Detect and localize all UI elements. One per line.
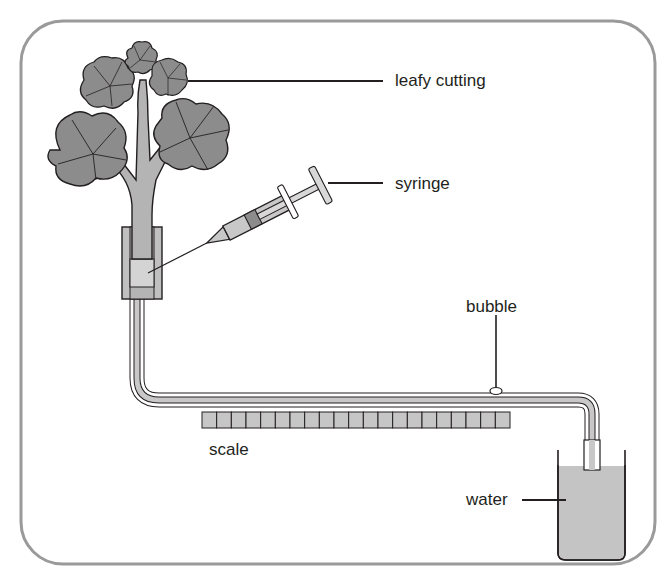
scale-cell: [275, 412, 290, 428]
air-bubble: [490, 388, 502, 395]
scale-cell: [393, 412, 408, 428]
scale-cell: [466, 412, 481, 428]
water-beaker: [558, 440, 625, 560]
scale-cell: [217, 412, 232, 428]
scale-cell: [422, 412, 437, 428]
scale-cell: [202, 412, 217, 428]
scale-cell: [378, 412, 393, 428]
scale-cell: [495, 412, 510, 428]
scale-cell: [363, 412, 378, 428]
scale-cell: [305, 412, 320, 428]
scale-cell: [334, 412, 349, 428]
label-leafy-cutting: leafy cutting: [395, 72, 486, 89]
diagram-canvas: [0, 0, 669, 579]
leaf-large-left: [48, 112, 127, 186]
syringe-drawing: [139, 166, 333, 291]
scale-cell: [231, 412, 246, 428]
scale-cell: [451, 412, 466, 428]
scale-cell: [437, 412, 452, 428]
leaf-upper-right: [149, 58, 187, 95]
scale-cell: [290, 412, 305, 428]
label-bubble: bubble: [466, 298, 517, 315]
leaf-large-right: [154, 99, 229, 170]
measuring-scale: [202, 412, 510, 428]
label-syringe: syringe: [395, 175, 450, 192]
potometer-diagram: leafy cutting syringe bubble scale water: [0, 0, 669, 579]
scale-cell: [246, 412, 261, 428]
scale-cell: [407, 412, 422, 428]
scale-cell: [319, 412, 334, 428]
label-scale: scale: [209, 441, 249, 458]
label-water: water: [466, 491, 508, 508]
scale-cell: [349, 412, 364, 428]
capillary-tube: [137, 290, 592, 470]
scale-cell: [261, 412, 276, 428]
scale-cell: [481, 412, 496, 428]
